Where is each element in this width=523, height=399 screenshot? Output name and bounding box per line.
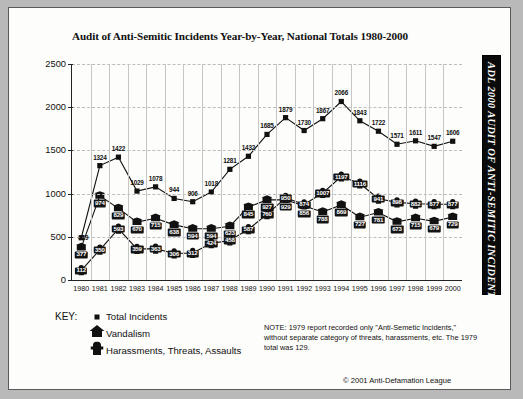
data-point-label: 760: [261, 211, 274, 218]
data-point-label: 874: [298, 201, 311, 208]
data-point-label: 673: [391, 226, 404, 233]
data-point-label: 927: [261, 204, 274, 211]
data-point-label: 1432: [242, 145, 255, 151]
data-point-label: 877: [428, 201, 441, 208]
x-axis-tick-label: 1997: [389, 284, 405, 293]
data-point-label: 869: [335, 209, 348, 216]
cross-icon: [91, 341, 104, 360]
data-point-label: 2066: [335, 90, 348, 96]
data-point-marker: [354, 213, 365, 221]
square-icon: [94, 308, 101, 325]
data-point-label: 1078: [149, 176, 162, 182]
y-axis-tick-label: 2500: [45, 59, 66, 69]
copyright-label: © 2001 Anti-Defamation League: [343, 376, 451, 385]
data-point-label: 1611: [409, 130, 422, 136]
gridline-horizontal: [72, 150, 462, 151]
y-axis-tick-mark: [68, 150, 73, 151]
data-point-label: 638: [168, 229, 181, 236]
data-point-label: 1879: [279, 106, 292, 112]
chart-note: NOTE: 1979 report recorded only "Anti-Se…: [264, 323, 479, 354]
legend-item-total: Total Incidents: [55, 308, 241, 325]
data-point-label: 1116: [352, 180, 367, 187]
data-point-label: 1685: [260, 123, 273, 129]
gridline-vertical: [369, 64, 370, 280]
gridline-vertical: [202, 64, 203, 280]
gridline-vertical: [221, 64, 222, 280]
gridline-vertical: [146, 64, 147, 280]
legend-item-vandalism: Vandalism: [55, 325, 241, 342]
side-banner-label: ADL 2000 AUDIT OF ANTI-SEMITIC INCIDENTS: [486, 62, 497, 304]
data-point-marker: [302, 128, 307, 133]
data-point-label: 1007: [315, 190, 331, 197]
data-point-marker: [336, 200, 347, 208]
data-point-label: 312: [186, 250, 199, 257]
x-axis-tick-label: 1990: [259, 284, 275, 293]
data-point-label: 729: [446, 221, 459, 228]
gridline-vertical: [295, 64, 296, 280]
data-point-marker: [172, 196, 177, 201]
gridline-vertical: [443, 64, 444, 280]
data-point-marker: [376, 129, 381, 134]
data-point-marker: [264, 132, 269, 137]
data-point-label: 715: [409, 222, 422, 229]
chart-plot-area: 0500100015002000250019801981198219831984…: [71, 64, 462, 281]
gridline-horizontal: [72, 194, 462, 195]
data-point-label: 1281: [223, 158, 236, 164]
data-point-marker: [394, 142, 399, 147]
data-point-label: 1029: [130, 180, 143, 186]
data-point-marker: [410, 214, 421, 222]
data-point-label: 929: [279, 204, 292, 211]
data-point-marker: [357, 118, 362, 123]
data-point-label: 306: [168, 250, 181, 257]
gridline-vertical: [183, 64, 184, 280]
data-point-label: 788: [316, 216, 329, 223]
x-axis-tick-label: 1983: [129, 284, 145, 293]
data-point-marker: [339, 99, 344, 104]
data-point-marker: [447, 212, 458, 220]
x-axis-tick-label: 1996: [370, 284, 386, 293]
data-point-marker: [113, 204, 124, 212]
y-axis-tick-label: 1000: [45, 189, 66, 199]
data-point-label: 974: [94, 200, 107, 207]
data-point-label: 1730: [297, 119, 310, 125]
gridline-vertical: [332, 64, 333, 280]
gridline-horizontal: [72, 237, 462, 238]
data-point-label: 906: [188, 191, 198, 197]
data-point-label: 1547: [427, 135, 440, 141]
page-title: Audit of Anti-Semitic Incidents Year-by-…: [9, 30, 471, 42]
data-point-label: 941: [372, 196, 385, 203]
data-point-marker: [94, 191, 105, 199]
data-point-marker: [429, 217, 440, 225]
legend-label-harassments: Harassments, Threats, Assaults: [97, 342, 241, 359]
y-axis-tick-label: 0: [61, 275, 66, 285]
gridline-vertical: [406, 64, 407, 280]
gridline-vertical: [276, 64, 277, 280]
y-axis-tick-label: 1500: [45, 145, 66, 155]
data-point-marker: [373, 208, 384, 216]
data-point-label: 845: [242, 211, 255, 218]
data-point-label: 1422: [112, 146, 125, 152]
data-point-marker: [153, 184, 158, 189]
gridline-vertical: [258, 64, 259, 280]
data-point-marker: [97, 163, 102, 168]
y-axis-tick-mark: [68, 280, 73, 281]
data-point-label: 898: [391, 199, 404, 206]
data-point-label: 587: [242, 226, 255, 233]
data-point-label: 1606: [446, 130, 459, 136]
gridline-vertical: [165, 64, 166, 280]
data-point-marker: [391, 217, 402, 225]
data-point-marker: [413, 138, 418, 143]
y-axis-tick-label: 2000: [45, 102, 66, 112]
data-point-label: 594: [205, 233, 218, 240]
gridline-vertical: [351, 64, 352, 280]
x-axis-tick-label: 1980: [73, 284, 89, 293]
data-point-label: 882: [409, 201, 422, 208]
data-point-marker: [246, 154, 251, 159]
gridline-horizontal: [72, 107, 462, 108]
gridline-vertical: [109, 64, 110, 280]
data-point-marker: [116, 155, 121, 160]
data-point-label: 377: [75, 251, 88, 258]
y-axis-tick-label: 500: [50, 232, 66, 242]
house-icon: [89, 325, 106, 343]
x-axis-tick-label: 1992: [296, 284, 312, 293]
